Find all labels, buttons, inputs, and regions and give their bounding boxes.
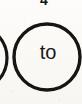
scanned-page-canvas: 4 to — [0, 0, 82, 104]
node-label-to: to — [28, 41, 68, 63]
step-number-label: 4 — [37, 0, 51, 7]
partial-circle-left — [0, 25, 7, 91]
